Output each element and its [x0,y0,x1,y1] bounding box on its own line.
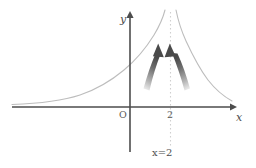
asymptote-label: x=2 [152,148,172,158]
left-limit-arrowhead [153,44,164,58]
y-axis-arrowhead [126,11,133,18]
right-limit-arrow-shaft [172,53,190,91]
plot-canvas [0,0,256,168]
origin-label: O [119,110,127,120]
left-limit-arrow-shaft [144,53,162,91]
function-graph-figure: y x O 2 x=2 [0,0,256,168]
y-axis-label: y [120,14,126,25]
x-axis-label: x [236,112,242,123]
x-axis-arrowhead [230,103,237,110]
x-tick-label-2: 2 [167,110,173,120]
curve-left-branch [12,10,165,105]
right-limit-arrowhead [165,44,176,58]
